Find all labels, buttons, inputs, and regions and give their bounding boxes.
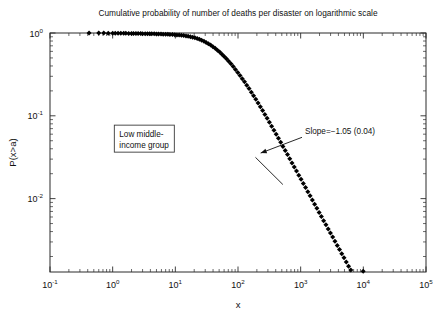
plot-frame	[50, 33, 426, 272]
data-point	[330, 235, 335, 240]
y-tick-label: 100	[30, 27, 44, 39]
y-tick-label: 10-2	[27, 192, 43, 204]
data-point	[335, 243, 340, 248]
data-point	[267, 120, 272, 125]
data-point	[301, 181, 306, 186]
data-point	[96, 31, 101, 36]
data-point	[326, 226, 331, 231]
data-point	[292, 164, 297, 169]
data-point	[271, 128, 276, 133]
data-point	[269, 124, 274, 129]
log-log-scatter-plot: Cumulative probability of number of deat…	[0, 0, 444, 320]
data-point	[287, 156, 292, 161]
data-point	[274, 132, 279, 137]
group-label-line1: Low middle-	[119, 130, 163, 139]
power-law-fit-line	[255, 157, 282, 184]
x-axis-label: x	[236, 299, 241, 310]
chart-figure: Cumulative probability of number of deat…	[0, 0, 444, 320]
data-point	[276, 136, 281, 141]
data-point	[308, 193, 313, 198]
data-point	[294, 169, 299, 174]
data-point	[321, 218, 326, 223]
data-point	[319, 214, 324, 219]
data-point	[344, 259, 349, 264]
data-point	[101, 31, 106, 36]
data-point	[290, 160, 295, 165]
data-point	[299, 177, 304, 182]
data-point	[87, 31, 92, 36]
data-point	[342, 255, 347, 260]
data-point	[305, 189, 310, 194]
data-point	[312, 202, 317, 207]
slope-annotation-text: Slope=−1.05 (0.04)	[305, 127, 375, 136]
data-point	[283, 148, 288, 153]
data-point	[285, 152, 290, 157]
data-point	[296, 173, 301, 178]
data-point	[323, 222, 328, 227]
slope-annotation-arrow	[261, 137, 302, 153]
data-point	[278, 140, 283, 145]
chart-title: Cumulative probability of number of deat…	[98, 8, 377, 18]
data-point	[260, 108, 265, 113]
data-point	[280, 144, 285, 149]
data-point	[346, 264, 351, 269]
x-tick-label: 102	[231, 278, 245, 290]
data-point	[337, 247, 342, 252]
x-tick-label: 104	[357, 278, 371, 290]
data-point	[265, 116, 270, 121]
x-tick-label: 101	[169, 278, 183, 290]
x-tick-label: 100	[106, 278, 120, 290]
data-point	[328, 231, 333, 236]
data-point	[310, 198, 315, 203]
data-point	[361, 269, 366, 274]
y-tick-label: 10-1	[27, 109, 43, 121]
x-tick-label: 10-1	[42, 278, 58, 290]
data-point	[314, 206, 319, 211]
x-tick-label: 105	[419, 278, 433, 290]
data-point	[317, 210, 322, 215]
x-tick-label: 103	[294, 278, 308, 290]
slope-annotation-arrowhead	[261, 149, 267, 154]
group-label-line2: income group	[119, 141, 169, 150]
y-axis-label: P(x>a)	[7, 138, 18, 166]
data-point	[262, 112, 267, 117]
data-point	[303, 185, 308, 190]
data-point	[339, 251, 344, 256]
data-point	[332, 239, 337, 244]
